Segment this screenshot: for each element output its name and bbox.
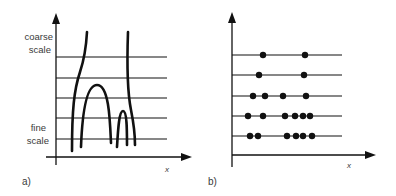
feature-dot xyxy=(262,93,268,99)
feature-dot xyxy=(300,113,306,119)
feature-dot xyxy=(292,113,298,119)
right-zero-crossing-curve xyxy=(127,32,135,145)
feature-dot xyxy=(300,133,306,139)
feature-dot xyxy=(245,113,251,119)
small-arch-curve xyxy=(117,111,127,147)
feature-dot xyxy=(280,93,286,99)
panel-a-zero-crossing-curves xyxy=(72,32,135,151)
panel-b-feature-dots xyxy=(245,52,315,139)
feature-dot xyxy=(309,133,315,139)
feature-dot xyxy=(282,113,288,119)
feature-dot xyxy=(284,133,290,139)
panel-a-label: a) xyxy=(22,176,31,187)
panel-a: coarse scale fine scale x a) xyxy=(22,13,192,187)
feature-dot xyxy=(301,72,307,78)
feature-dot xyxy=(256,72,262,78)
feature-dot xyxy=(247,133,253,139)
left-zero-crossing-curve xyxy=(72,32,87,151)
feature-dot xyxy=(255,133,261,139)
panel-b-label: b) xyxy=(208,176,217,187)
panel-b-y-axis-arrow-icon xyxy=(228,12,236,23)
scale-space-diagram: coarse scale fine scale x a) x b) xyxy=(0,0,396,196)
panel-a-y-axis-arrow-icon xyxy=(52,13,60,24)
panel-b: x b) xyxy=(208,12,376,187)
panel-a-x-axis-arrow-icon xyxy=(181,153,192,161)
panel-a-x-label: x xyxy=(164,165,170,174)
large-arch-curve xyxy=(81,85,111,147)
feature-dot xyxy=(302,52,308,58)
panel-b-x-label: x xyxy=(346,161,352,170)
panel-a-fine-label-1: fine xyxy=(31,122,46,133)
panel-a-coarse-label-1: coarse xyxy=(24,31,53,42)
panel-a-coarse-label-2: scale xyxy=(29,44,51,55)
feature-dot xyxy=(293,133,299,139)
panel-a-fine-label-2: scale xyxy=(27,135,49,146)
feature-dot xyxy=(250,93,256,99)
feature-dot xyxy=(307,113,313,119)
panel-b-scale-lines xyxy=(232,55,342,136)
panel-b-x-axis-arrow-icon xyxy=(365,151,376,159)
feature-dot xyxy=(260,52,266,58)
feature-dot xyxy=(260,113,266,119)
feature-dot xyxy=(303,93,309,99)
